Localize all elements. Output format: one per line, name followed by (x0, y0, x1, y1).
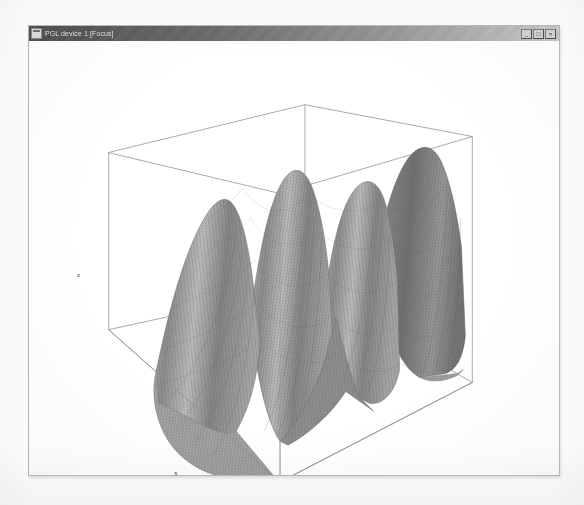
window-title-text: PGL device 1 [Focus] (45, 29, 114, 38)
close-icon: × (546, 30, 555, 38)
plot-canvas-area[interactable]: z x (29, 41, 559, 475)
application-window: PGL device 1 [Focus] _ □ × (28, 25, 560, 476)
maximize-icon: □ (534, 30, 543, 38)
window-system-icon[interactable] (31, 28, 42, 39)
scanned-page-background: PGL device 1 [Focus] _ □ × (0, 0, 584, 505)
surface-plot-3d[interactable] (29, 41, 559, 475)
surface-ridge-1 (154, 199, 278, 475)
axis-label-z: z (77, 271, 80, 279)
minimize-icon: _ (522, 30, 531, 38)
surface-mesh (154, 147, 466, 475)
axis-label-x: x (174, 469, 178, 475)
window-title-bar[interactable]: PGL device 1 [Focus] _ □ × (29, 26, 559, 41)
close-button[interactable]: × (545, 29, 556, 39)
window-controls-group: _ □ × (521, 29, 557, 39)
maximize-button[interactable]: □ (533, 29, 544, 39)
minimize-button[interactable]: _ (521, 29, 532, 39)
